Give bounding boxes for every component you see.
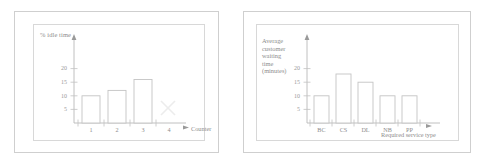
watermark-x-icon <box>161 101 175 115</box>
idle-time-y-axis-label: % idle time <box>40 31 71 39</box>
x-axis-arrow-icon <box>426 124 432 128</box>
idle-time-x-axis-label: Counter <box>191 125 211 132</box>
waiting-time-plot-frame: Average customer waiting time (minutes) … <box>256 24 459 141</box>
x-tick-label-2: 2 <box>107 126 127 133</box>
bar-NB <box>380 96 395 123</box>
bar-CS <box>336 74 351 123</box>
x-tick-label-1: 1 <box>81 126 101 133</box>
y-tick-label-20: 20 <box>47 65 67 71</box>
y-axis-label-line-1: Average <box>262 37 287 45</box>
y-tick-label-10: 10 <box>47 93 67 99</box>
y-tick-label-5: 5 <box>47 106 67 112</box>
y-axis-label-line-3: waiting <box>262 52 287 60</box>
bar-BC <box>314 96 329 123</box>
idle-time-plot-frame: % idle time 5 10 15 20 1 2 3 4 Counter <box>33 24 205 141</box>
x-tick-label-DL: DL <box>356 126 376 133</box>
y-tick-label-15: 15 <box>47 79 67 85</box>
y-tick-label-20: 20 <box>280 65 300 71</box>
x-tick-label-BC: BC <box>312 126 332 133</box>
y-tick-label-5: 5 <box>280 106 300 112</box>
y-tick-label-15: 15 <box>280 79 300 85</box>
right-figure-panel: Average customer waiting time (minutes) … <box>243 11 471 153</box>
x-tick-label-CS: CS <box>334 126 354 133</box>
x-tick-label-3: 3 <box>133 126 153 133</box>
screenshot-root: % idle time 5 10 15 20 1 2 3 4 Counter <box>0 0 485 164</box>
y-tick-label-10: 10 <box>280 93 300 99</box>
x-axis-arrow-icon <box>183 125 189 129</box>
y-axis-arrow-icon <box>72 34 77 40</box>
left-figure-panel: % idle time 5 10 15 20 1 2 3 4 Counter <box>14 11 219 153</box>
bar-counter-1 <box>82 96 100 123</box>
bar-DL <box>358 82 373 123</box>
x-tick-label-4: 4 <box>159 126 179 133</box>
bar-PP <box>402 96 417 123</box>
bar-counter-2 <box>108 90 126 123</box>
bar-counter-3 <box>134 80 152 124</box>
y-axis-arrow-icon <box>305 34 310 40</box>
waiting-time-x-axis-label: Required service type <box>381 131 436 138</box>
y-axis-label-line-2: customer <box>262 45 287 53</box>
